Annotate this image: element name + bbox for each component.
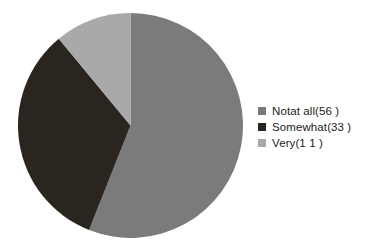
legend-item-very[interactable]: Very(1 1 ) <box>258 135 380 151</box>
pie-slice-group <box>18 13 243 238</box>
pie-svg <box>18 13 243 238</box>
legend-item-somewhat[interactable]: Somewhat(33 ) <box>258 119 380 135</box>
pie-chart-graphic <box>18 13 243 238</box>
legend-item-notat-all[interactable]: Notat all(56 ) <box>258 103 380 119</box>
legend-swatch-icon-somewhat <box>258 123 266 131</box>
legend-label-notat-all: Notat all(56 ) <box>272 103 339 119</box>
chart-legend: Notat all(56 ) Somewhat(33 ) Very(1 1 ) <box>258 103 380 151</box>
legend-label-somewhat: Somewhat(33 ) <box>272 119 351 135</box>
legend-label-very: Very(1 1 ) <box>272 135 323 151</box>
legend-swatch-icon-very <box>258 139 266 147</box>
pie-chart-figure: Notat all(56 ) Somewhat(33 ) Very(1 1 ) <box>0 0 383 251</box>
legend-swatch-icon-notat-all <box>258 107 266 115</box>
